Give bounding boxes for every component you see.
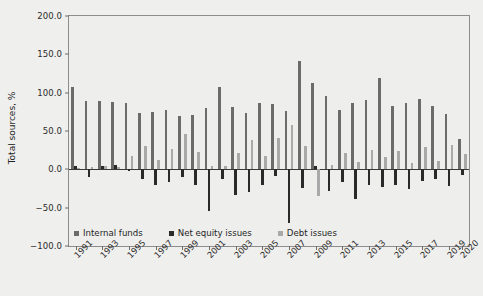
- bar-1995-series-0: [125, 103, 128, 169]
- bar-1993-series-0: [98, 101, 101, 169]
- bar-2014-series-2: [384, 157, 387, 169]
- bar-1992-series-2: [91, 167, 94, 169]
- bar-2000-series-1: [194, 169, 197, 185]
- bar-2018-series-2: [437, 161, 440, 169]
- bar-2006-series-0: [271, 104, 274, 169]
- bar-1997-series-1: [154, 169, 157, 185]
- bar-2009-series-0: [311, 83, 314, 169]
- bar-2002-series-0: [218, 87, 221, 169]
- bar-2005-series-2: [264, 156, 267, 169]
- bar-2013-series-1: [368, 169, 371, 185]
- bar-2007-series-0: [285, 111, 288, 169]
- bar-1995-series-1: [128, 169, 131, 171]
- bar-2011-series-1: [341, 169, 344, 181]
- y-axis-tick-mark: [65, 169, 69, 170]
- bar-2000-series-0: [191, 115, 194, 169]
- bar-2010-series-1: [328, 169, 331, 190]
- y-axis-tick-mark: [65, 16, 69, 17]
- y-axis-tick-mark: [65, 246, 69, 247]
- bar-2003-series-1: [234, 169, 237, 194]
- bar-2002-series-1: [221, 169, 224, 178]
- bar-2016-series-0: [405, 103, 408, 170]
- bar-2010-series-2: [331, 165, 334, 170]
- bar-2003-series-0: [231, 107, 234, 169]
- bar-2010-series-0: [325, 96, 328, 170]
- bar-2015-series-0: [391, 106, 394, 169]
- bar-2007-series-1: [288, 169, 291, 223]
- bar-2016-series-2: [411, 163, 414, 169]
- bar-2001-series-0: [205, 108, 208, 169]
- bar-2014-series-1: [381, 169, 384, 187]
- bar-2017-series-0: [418, 99, 421, 170]
- bar-1997-series-2: [157, 160, 160, 169]
- bar-2012-series-0: [351, 103, 354, 170]
- bar-2000-series-2: [197, 152, 200, 169]
- bar-1995-series-2: [131, 156, 134, 169]
- bar-1998-series-2: [171, 149, 174, 169]
- bar-1994-series-2: [117, 167, 120, 169]
- legend-item-0: Internal funds: [74, 228, 143, 238]
- bar-2001-series-1: [208, 169, 211, 211]
- y-axis-label: Total sources, %: [7, 92, 17, 165]
- bar-2011-series-2: [344, 153, 347, 169]
- bar-2014-series-0: [378, 78, 381, 169]
- bar-1993-series-2: [104, 166, 107, 169]
- bar-2004-series-0: [245, 113, 248, 170]
- bar-2015-series-2: [397, 151, 400, 169]
- bar-2008-series-2: [304, 146, 307, 169]
- bar-2006-series-2: [277, 138, 280, 169]
- bar-1991-series-0: [71, 87, 74, 170]
- legend-item-label: Debt issues: [287, 228, 337, 238]
- bar-2001-series-2: [211, 166, 214, 170]
- legend-item-2: Debt issues: [278, 228, 337, 238]
- bar-1997-series-0: [151, 112, 154, 170]
- bar-2008-series-0: [298, 61, 301, 169]
- bar-2011-series-0: [338, 110, 341, 170]
- bar-1992-series-1: [88, 169, 91, 177]
- bar-1996-series-2: [144, 146, 147, 170]
- bar-1998-series-1: [168, 169, 171, 182]
- plot-area: [69, 16, 469, 246]
- bar-2018-series-0: [431, 106, 434, 170]
- bar-2004-series-1: [248, 169, 251, 191]
- bar-1992-series-0: [85, 101, 88, 169]
- bar-2003-series-2: [237, 153, 240, 169]
- bar-1991-series-2: [77, 168, 80, 170]
- legend-item-label: Net equity issues: [178, 228, 252, 238]
- bar-2019-series-0: [445, 114, 448, 169]
- bar-2020-series-0: [458, 139, 461, 170]
- chart-legend: Internal fundsNet equity issuesDebt issu…: [74, 228, 337, 238]
- bar-1996-series-0: [138, 113, 141, 170]
- bar-2020-series-2: [464, 154, 467, 169]
- bar-2020-series-1: [461, 169, 464, 175]
- bar-2016-series-1: [408, 169, 411, 189]
- bar-2017-series-1: [421, 169, 424, 181]
- y-axis-tick-mark: [65, 92, 69, 93]
- plot-frame: 200.0150.0100.050.00.0−50.0−100.0: [68, 15, 470, 247]
- chart-figure: Total sources, % 200.0150.0100.050.00.0−…: [0, 0, 483, 296]
- bar-2012-series-1: [354, 169, 357, 199]
- bar-1994-series-0: [111, 102, 114, 169]
- bar-2006-series-1: [274, 169, 277, 176]
- bar-2013-series-0: [365, 100, 368, 169]
- y-axis-tick-mark: [65, 207, 69, 208]
- bar-2013-series-2: [371, 150, 374, 169]
- legend-item-1: Net equity issues: [169, 228, 252, 238]
- bar-2015-series-1: [394, 169, 397, 184]
- bar-2002-series-2: [224, 166, 227, 170]
- bar-2007-series-2: [291, 125, 294, 169]
- bar-1999-series-0: [178, 116, 181, 170]
- legend-swatch-icon: [278, 231, 283, 236]
- legend-swatch-icon: [169, 231, 174, 236]
- bar-2017-series-2: [424, 147, 427, 169]
- bar-1998-series-0: [165, 110, 168, 170]
- bar-2019-series-2: [451, 145, 454, 170]
- bar-1999-series-1: [181, 169, 184, 177]
- bar-2009-series-2: [317, 169, 320, 196]
- bar-2012-series-2: [357, 162, 360, 169]
- bar-1996-series-1: [141, 169, 144, 179]
- bar-2004-series-2: [251, 140, 254, 169]
- bar-2005-series-0: [258, 103, 261, 170]
- y-axis-tick-mark: [65, 131, 69, 132]
- y-axis-tick-label: −100.0: [30, 241, 69, 251]
